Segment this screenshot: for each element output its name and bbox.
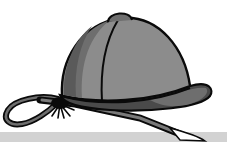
helmet bbox=[60, 13, 211, 110]
riding-helmet-illustration bbox=[0, 0, 227, 142]
clipart-canvas bbox=[0, 0, 227, 142]
